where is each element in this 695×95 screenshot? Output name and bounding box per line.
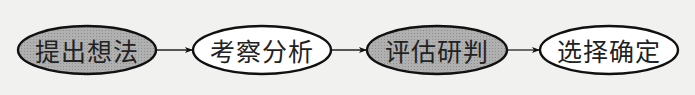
node-label-1: 提出想法: [18, 26, 156, 74]
node-label-3: 评估研判: [367, 26, 507, 74]
node-label-4: 选择确定: [540, 26, 678, 74]
flowchart: 提出想法 考察分析 评估研判 选择确定: [0, 0, 695, 95]
node-label-2: 考察分析: [193, 26, 331, 74]
